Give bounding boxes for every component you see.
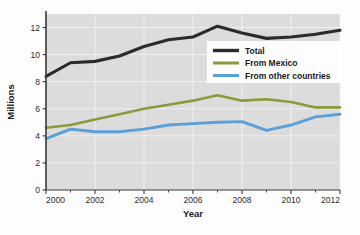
x-axis-ticks: 2000200220042006200820102012 [46, 190, 340, 205]
x-tick-label: 2008 [233, 195, 252, 205]
legend-label: From other countries [245, 71, 331, 81]
line-chart: 0246810122000200220042006200820102012Yea… [0, 0, 360, 235]
y-axis-title: Millions [5, 84, 16, 119]
x-tick-label: 2004 [135, 195, 154, 205]
x-tick-label: 2010 [282, 195, 301, 205]
x-axis-title: Year [183, 208, 203, 219]
y-tick-label: 2 [35, 158, 40, 168]
y-tick-label: 6 [35, 104, 40, 114]
x-tick-label: 2012 [321, 195, 340, 205]
y-axis-ticks: 024681012 [31, 23, 46, 195]
x-tick-label: 2002 [86, 195, 105, 205]
x-tick-label: 2006 [184, 195, 203, 205]
x-tick-label: 2000 [46, 195, 65, 205]
legend-label: Total [245, 46, 265, 56]
y-tick-label: 0 [35, 185, 40, 195]
y-tick-label: 4 [35, 131, 40, 141]
y-tick-label: 12 [31, 23, 41, 33]
y-tick-label: 8 [35, 77, 40, 87]
chart-legend: TotalFrom MexicoFrom other countries [207, 41, 342, 83]
chart-container: 0246810122000200220042006200820102012Yea… [0, 0, 360, 235]
y-tick-label: 10 [31, 50, 41, 60]
legend-label: From Mexico [245, 58, 297, 68]
